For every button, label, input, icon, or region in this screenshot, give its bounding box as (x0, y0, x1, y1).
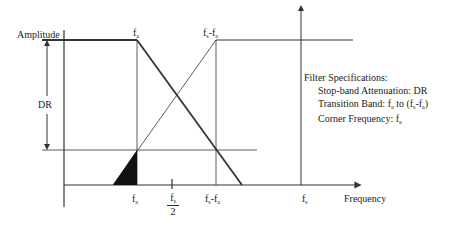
top-fs-minus-fa-label: fs-fa (203, 28, 218, 39)
spec-stopband: Stop-band Attenuation: DR (304, 85, 428, 98)
y-axis-label: Amplitude (17, 30, 60, 40)
x-axis-label: Frequency (344, 194, 386, 204)
filter-specifications: Filter Specifications: Stop-band Attenua… (304, 72, 428, 129)
bottom-fs-label: fs (302, 194, 308, 205)
bottom-fa-label: fa (132, 194, 138, 205)
specs-title: Filter Specifications: (304, 72, 428, 85)
bottom-fs-minus-fa-label: fs-fa (205, 194, 220, 205)
spec-corner-frequency: Corner Frequency: fa (304, 113, 428, 129)
filter-rolloff-line (137, 40, 242, 185)
top-fa-label: fa (133, 28, 139, 39)
spec-transition-band: Transition Band: fa to (fs-fa) (304, 98, 428, 114)
dr-label: DR (38, 100, 52, 110)
fs-half-label: fs 2 (166, 193, 180, 217)
